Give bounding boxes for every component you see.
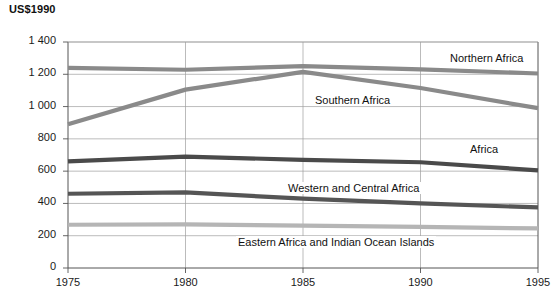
x-axis-tick-label: 1980 <box>156 276 216 288</box>
series-label: Northern Africa <box>448 52 525 64</box>
y-axis-tick-label: 400 <box>4 195 56 207</box>
series-label: Africa <box>468 143 500 155</box>
y-axis-tick-label: 1 200 <box>4 66 56 78</box>
x-axis-tick-label: 1990 <box>391 276 451 288</box>
x-axis-tick-label: 1995 <box>508 276 552 288</box>
y-axis-tick-label: 1 400 <box>4 34 56 46</box>
series-label: Eastern Africa and Indian Ocean Islands <box>236 236 436 248</box>
y-axis-tick-label: 800 <box>4 131 56 143</box>
series-label: Western and Central Africa <box>286 182 421 194</box>
chart-container: US$1990 02004006008001 0001 2001 400 197… <box>0 0 552 296</box>
y-axis-tick-label: 0 <box>4 260 56 272</box>
x-axis-tick-label: 1985 <box>273 276 333 288</box>
y-axis-tick-label: 1 000 <box>4 99 56 111</box>
y-axis-tick-label: 600 <box>4 163 56 175</box>
y-axis-tick-label: 200 <box>4 228 56 240</box>
series-label: Southern Africa <box>313 94 392 106</box>
x-axis-tick-label: 1975 <box>38 276 98 288</box>
gridlines-group <box>68 42 538 268</box>
